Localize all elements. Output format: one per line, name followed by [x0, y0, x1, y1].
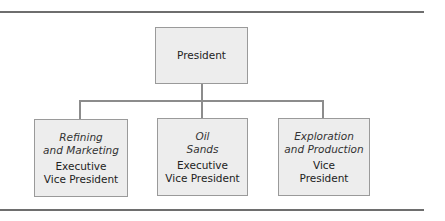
president-title: President: [177, 49, 226, 62]
bottom-rule: [0, 209, 424, 211]
role-title: Executive Vice President: [165, 159, 239, 185]
unit-name: Refining and Marketing: [43, 131, 119, 157]
top-rule: [0, 11, 424, 13]
unit-name: Oil Sands: [187, 130, 219, 156]
oil-sands-box: Oil Sands Executive Vice President: [157, 118, 248, 196]
left-connector: [79, 100, 81, 119]
unit-name: Exploration and Production: [284, 130, 363, 156]
exploration-production-box: Exploration and Production Vice Presiden…: [278, 118, 370, 196]
role-title: Vice President: [300, 159, 349, 185]
right-connector: [322, 100, 324, 119]
role-title: Executive Vice President: [44, 160, 118, 186]
middle-connector: [201, 100, 203, 119]
president-box: President: [155, 27, 248, 84]
refining-marketing-box: Refining and Marketing Executive Vice Pr…: [34, 119, 128, 197]
